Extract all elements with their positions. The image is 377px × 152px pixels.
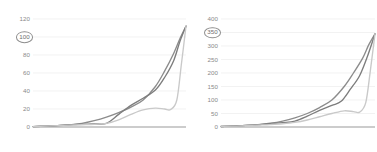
y-tick-label: 0 <box>214 124 218 130</box>
data-series-line-series-c <box>33 26 186 126</box>
chart-panel-left: 020406080100120 <box>0 0 188 152</box>
y-tick-label: 60 <box>23 70 30 76</box>
chart-panel-right: 050100150200250300350400 <box>188 0 377 152</box>
data-series-line-series-b <box>33 26 186 126</box>
y-tick-label: 50 <box>211 110 218 116</box>
data-series-line-series-a <box>221 34 375 127</box>
y-tick-label: 40 <box>23 88 30 94</box>
data-series-line-series-c <box>221 34 375 127</box>
y-tick-label: 100 <box>207 97 218 103</box>
y-tick-label: 200 <box>207 70 218 76</box>
y-tick-label: 80 <box>23 52 30 58</box>
dual-line-chart-figure: 020406080100120 050100150200250300350400 <box>0 0 377 152</box>
data-series-line-series-b <box>221 34 375 127</box>
y-tick-label: 300 <box>207 43 218 49</box>
y-tick-label: 0 <box>26 124 30 130</box>
y-tick-label-highlighted: 100 <box>16 31 33 43</box>
y-tick-label: 250 <box>207 56 218 62</box>
y-tick-label: 120 <box>19 16 30 22</box>
y-tick-label-highlighted: 350 <box>204 27 221 39</box>
data-series-line-series-a <box>33 26 186 126</box>
y-tick-label: 20 <box>23 106 30 112</box>
y-tick-label: 150 <box>207 83 218 89</box>
y-tick-label: 400 <box>207 16 218 22</box>
